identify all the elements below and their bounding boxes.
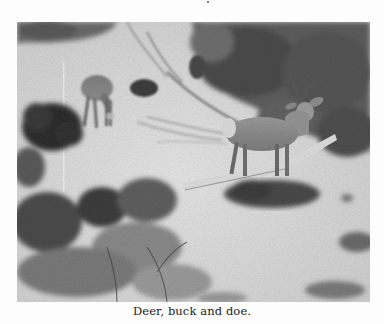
book-page: Deer, buck and doe. bbox=[0, 0, 384, 324]
print-speck bbox=[207, 1, 209, 3]
photo-illustration bbox=[17, 22, 370, 302]
deer-photograph bbox=[17, 22, 370, 302]
shrub-under-buck bbox=[224, 180, 320, 208]
photo-caption: Deer, buck and doe. bbox=[0, 304, 384, 318]
